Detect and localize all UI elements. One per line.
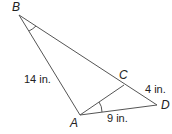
triangle-diagram: B C D A 14 in. 4 in. 9 in. xyxy=(0,0,172,134)
angle-b-arc-icon xyxy=(29,26,36,31)
vertex-label-d: D xyxy=(161,99,170,111)
triangle-figure xyxy=(0,0,172,134)
vertex-label-c: C xyxy=(119,69,128,81)
length-label-cd: 4 in. xyxy=(145,84,166,95)
segment-ab xyxy=(19,15,80,115)
vertex-label-a: A xyxy=(70,117,78,129)
length-label-ab: 14 in. xyxy=(24,74,51,85)
vertex-label-b: B xyxy=(12,1,20,13)
segment-bd xyxy=(19,15,157,105)
length-label-ad: 9 in. xyxy=(107,113,128,124)
angle-a-arc-icon xyxy=(99,102,102,112)
